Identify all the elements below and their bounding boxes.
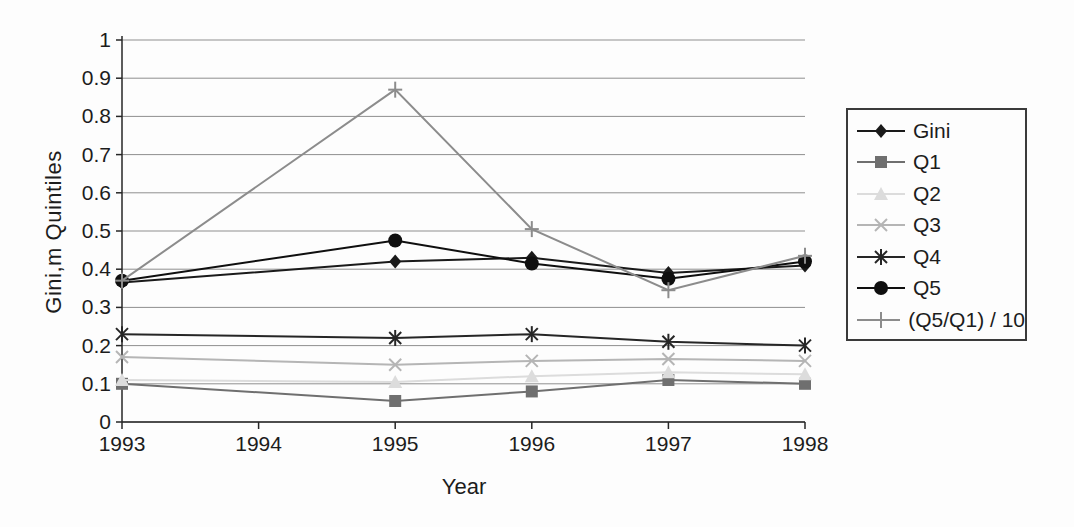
legend-item-gini: Gini: [848, 115, 1025, 147]
x-tick-label: 1995: [372, 432, 419, 455]
marker-shape: [874, 281, 888, 295]
marker-circle: [525, 256, 539, 270]
marker-square: [875, 156, 887, 168]
y-tick-label: 0.4: [82, 257, 112, 280]
marker-diamond: [389, 255, 401, 269]
legend-item-label: Gini: [913, 119, 950, 143]
x-tick-label: 1996: [508, 432, 555, 455]
legend: Gini Q1 Q2 Q3 Q4 Q5 (Q5/Q1) / 10: [846, 108, 1027, 341]
legend-item-label: Q3: [913, 213, 941, 237]
marker-shape: [525, 256, 539, 270]
legend-marker-icon: [857, 214, 905, 236]
marker-plus: [115, 273, 129, 289]
series-line-q4: [122, 334, 805, 345]
y-tick-label: 0.3: [82, 295, 111, 318]
legend-marker-icon: [857, 151, 905, 173]
marker-shape: [875, 156, 887, 168]
y-tick-label: 0.1: [82, 372, 111, 395]
legend-marker-icon: [857, 183, 905, 205]
x-tick-label: 1998: [782, 432, 829, 455]
legend-item-q2: Q2: [848, 178, 1025, 210]
series-line-q1: [122, 380, 805, 401]
marker-circle: [874, 281, 888, 295]
x-tick-label: 1997: [645, 432, 692, 455]
marker-plus: [661, 282, 675, 298]
y-tick-label: 0.8: [82, 104, 111, 127]
legend-item-q5: Q5: [848, 273, 1025, 305]
y-tick-label: 0.2: [82, 334, 111, 357]
legend-item-label: Q4: [913, 245, 941, 269]
marker-shape: [389, 395, 401, 407]
y-axis-title: Gini,m Quintiles: [41, 132, 67, 332]
series-line-gini: [122, 258, 805, 283]
legend-item-q1: Q1: [848, 147, 1025, 179]
y-tick-label: 0.9: [82, 66, 111, 89]
legend-item-label: Q1: [913, 150, 941, 174]
x-tick-label: 1994: [235, 432, 282, 455]
y-tick-label: 0: [99, 410, 111, 433]
legend-item-q3: Q3: [848, 210, 1025, 242]
y-tick-label: 0.5: [82, 219, 111, 242]
marker-diamond: [875, 124, 887, 138]
series-line-q3: [122, 357, 805, 365]
y-tick-label: 0.7: [82, 143, 111, 166]
marker-plus: [874, 312, 888, 328]
y-tick-label: 0.6: [82, 181, 111, 204]
x-tick-label: 1993: [99, 432, 146, 455]
legend-marker-icon: [857, 120, 905, 142]
legend-item-q4: Q4: [848, 241, 1025, 273]
marker-square: [526, 385, 538, 397]
legend-item-q5-q1-10: (Q5/Q1) / 10: [848, 304, 1025, 336]
x-axis-title: Year: [384, 474, 544, 500]
marker-square: [389, 395, 401, 407]
marker-circle: [388, 234, 402, 248]
legend-marker-icon: [857, 277, 905, 299]
marker-shape: [875, 124, 887, 138]
marker-shape: [388, 234, 402, 248]
y-tick-label: 1: [99, 28, 111, 51]
legend-item-label: (Q5/Q1) / 10: [908, 308, 1025, 332]
legend-marker-icon: [857, 309, 900, 331]
marker-shape: [389, 255, 401, 269]
legend-marker-icon: [857, 246, 905, 268]
legend-item-label: Q5: [913, 276, 941, 300]
chart-figure: 00.10.20.30.40.50.60.70.80.9119931994199…: [0, 0, 1074, 527]
marker-shape: [526, 385, 538, 397]
legend-item-label: Q2: [913, 182, 941, 206]
